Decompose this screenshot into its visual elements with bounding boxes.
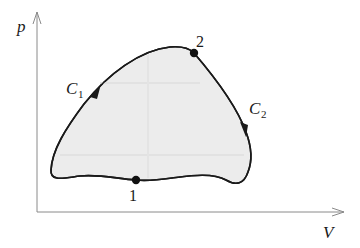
x-axis xyxy=(37,208,344,216)
point-2-label: 2 xyxy=(196,33,204,50)
y-axis-label: p xyxy=(16,17,26,36)
x-axis-label: V xyxy=(323,223,336,242)
pv-diagram: p V 2 1 C 1 C 2 xyxy=(0,0,360,248)
c2-label-main: C xyxy=(249,99,261,118)
c1-label-subscript: 1 xyxy=(78,88,84,100)
y-axis xyxy=(33,12,41,212)
c2-label-subscript: 2 xyxy=(261,108,267,120)
curve-c2-label: C 2 xyxy=(249,99,267,120)
point-2-marker xyxy=(190,49,198,57)
point-1-label: 1 xyxy=(129,187,137,204)
point-1-marker xyxy=(132,176,140,184)
curve-c1-label: C 1 xyxy=(66,79,84,100)
cycle-region xyxy=(51,47,251,183)
c1-label-main: C xyxy=(66,79,78,98)
